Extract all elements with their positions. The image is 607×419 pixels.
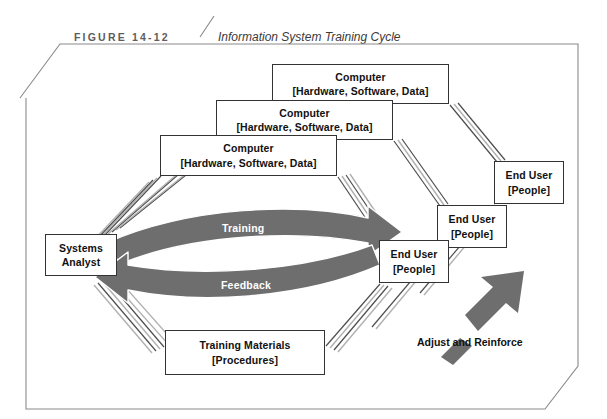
node-enduser-front[interactable]: End User [People] — [379, 240, 449, 283]
node-label-line2: [Hardware, Software, Data] — [292, 84, 428, 98]
node-label-line2: [Procedures] — [212, 353, 278, 367]
node-label-line1: End User — [449, 212, 496, 226]
figure-container: FIGURE 14-12 Information System Training… — [0, 0, 607, 419]
node-computer-back[interactable]: Computer [Hardware, Software, Data] — [272, 64, 449, 104]
node-computer-front[interactable]: Computer [Hardware, Software, Data] — [160, 135, 337, 176]
node-label-line1: Computer — [223, 141, 273, 155]
node-label-line1: Computer — [335, 70, 385, 84]
adjust-and-reinforce-arrow — [441, 271, 524, 365]
feedback-flow-label: Feedback — [221, 279, 271, 291]
node-training-materials[interactable]: Training Materials [Procedures] — [165, 330, 325, 375]
node-label-line1: End User — [506, 168, 553, 182]
connector-computer-back-enduser-back — [450, 103, 505, 162]
node-label-line2: [People] — [508, 183, 550, 197]
connector-enduser-front-training-materials — [326, 284, 392, 352]
node-computer-middle[interactable]: Computer [Hardware, Software, Data] — [216, 100, 393, 140]
node-label-line1: End User — [391, 247, 438, 261]
node-systems-analyst[interactable]: Systems Analyst — [45, 234, 117, 276]
node-label-line2: [People] — [393, 262, 435, 276]
node-label-line1: Training Materials — [199, 338, 290, 352]
node-label-line2: [Hardware, Software, Data] — [236, 120, 372, 134]
node-label-line2: [Hardware, Software, Data] — [180, 156, 316, 170]
node-label-line2: [People] — [451, 227, 493, 241]
node-label-line2: Analyst — [62, 255, 101, 269]
node-label-line1: Computer — [279, 106, 329, 120]
connector-computer-middle-enduser-middle — [394, 139, 448, 206]
node-enduser-back[interactable]: End User [People] — [494, 161, 564, 204]
adjust-and-reinforce-label: Adjust and Reinforce — [417, 336, 523, 348]
node-label-line1: Systems — [59, 241, 103, 255]
training-flow-label: Training — [222, 222, 264, 234]
figure-slash — [200, 16, 214, 37]
